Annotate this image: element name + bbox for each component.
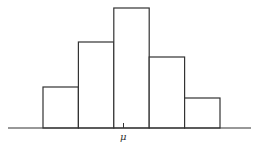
histogram-bars bbox=[43, 8, 220, 128]
histogram-bar bbox=[114, 8, 149, 128]
histogram-bar bbox=[149, 57, 184, 128]
mean-label: μ bbox=[120, 132, 127, 142]
histogram-bar bbox=[185, 98, 220, 128]
histogram-bar bbox=[43, 87, 78, 128]
histogram-bar bbox=[78, 42, 113, 128]
histogram-chart bbox=[0, 0, 259, 148]
